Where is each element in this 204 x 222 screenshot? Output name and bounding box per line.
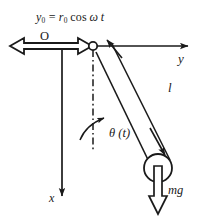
drive-oscillation-arrow bbox=[10, 38, 92, 54]
x-axis-label: x bbox=[49, 192, 54, 204]
angle-arc bbox=[80, 118, 104, 140]
pendulum-diagram: y0 = r0 cos ω t O y x l θ (t) mg bbox=[0, 0, 204, 222]
y-axis-label: y bbox=[178, 52, 184, 65]
origin-label: O bbox=[40, 30, 49, 43]
pivot-point bbox=[89, 42, 97, 50]
drive-equation-label: y0 = r0 cos ω t bbox=[36, 11, 104, 24]
rod-length-label: l bbox=[168, 81, 172, 94]
pendulum-rod bbox=[96, 40, 170, 168]
angle-label: θ (t) bbox=[109, 127, 130, 140]
weight-label: mg bbox=[168, 184, 183, 197]
